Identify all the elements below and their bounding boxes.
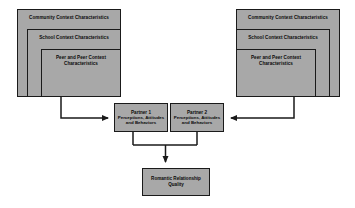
right-peer-context-label: Peer and Peer Context Characteristics: [237, 55, 315, 66]
left-peer-context-label: Peer and Peer Context Characteristics: [42, 55, 120, 66]
outcome-label: Romantic Relationship Quality: [148, 176, 204, 187]
left-peer-context-line2: Characteristics: [64, 61, 98, 66]
right-peer-context-line2: Characteristics: [259, 61, 293, 66]
right-context-group: Community Context Characteristics School…: [236, 9, 340, 97]
diagram-canvas: Community Context Characteristics School…: [0, 0, 355, 208]
left-peer-context-line1: Peer and Peer Context: [56, 55, 106, 60]
partner-2-box[interactable]: Partner 2 Perceptions, Attitudes and Beh…: [170, 103, 224, 132]
connector-left-to-partner1: [61, 97, 108, 118]
right-peer-context-box[interactable]: Peer and Peer Context Characteristics: [236, 49, 316, 97]
left-community-context-label: Community Context Characteristics: [18, 15, 120, 21]
partner-1-box[interactable]: Partner 1 Perceptions, Attitudes and Beh…: [114, 103, 168, 132]
romantic-relationship-quality-box[interactable]: Romantic Relationship Quality: [142, 168, 210, 196]
partner-2-line2: and Behaviors: [182, 120, 212, 125]
outcome-line1: Romantic Relationship: [151, 176, 201, 181]
left-school-context-label: School Context Characteristics: [28, 35, 120, 41]
connector-right-to-partner2: [231, 97, 294, 118]
left-peer-context-box[interactable]: Peer and Peer Context Characteristics: [41, 49, 121, 97]
partner-1-subtitle: Perceptions, Attitudes and Behaviors: [116, 115, 166, 125]
right-peer-context-line1: Peer and Peer Context: [251, 55, 301, 60]
right-school-context-label: School Context Characteristics: [237, 35, 329, 41]
left-context-group: Community Context Characteristics School…: [17, 9, 121, 97]
right-community-context-label: Community Context Characteristics: [237, 15, 339, 21]
outcome-line2: Quality: [168, 182, 184, 187]
partner-2-subtitle: Perceptions, Attitudes and Behaviors: [172, 115, 222, 125]
partner-1-line2: and Behaviors: [126, 120, 156, 125]
